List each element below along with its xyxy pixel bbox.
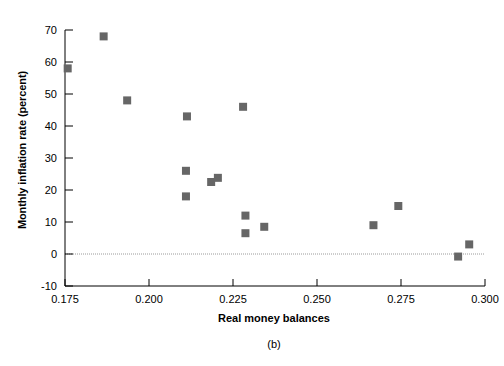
data-point-marker [64,64,72,72]
y-axis-tick-label: -10 [41,280,57,292]
data-point-marker [241,229,249,237]
data-point-marker [183,112,191,120]
x-axis-tick-label: 0.200 [135,293,163,305]
y-axis-tick-label: 10 [45,216,57,228]
data-point-marker [241,212,249,220]
data-point-marker [454,253,462,261]
y-axis-tick-label: 50 [45,88,57,100]
data-point-marker [182,192,190,200]
data-point-marker [394,202,402,210]
x-axis-tick-label: 0.300 [471,293,499,305]
x-axis-tick-label: 0.225 [219,293,247,305]
y-axis-tick-label: 70 [45,24,57,36]
y-axis-tick-label: 20 [45,184,57,196]
y-axis-tick-label: 60 [45,56,57,68]
x-axis-tick-label: 0.175 [51,293,79,305]
data-point-marker [123,96,131,104]
figure-caption: (b) [22,338,504,350]
x-axis-tick-label: 0.250 [303,293,331,305]
data-point-marker [465,240,473,248]
data-point-marker [239,103,247,111]
data-point-marker [369,221,377,229]
y-axis-tick-label: 40 [45,120,57,132]
figure-panel: Monthly inflation rate (percent) 7060504… [0,0,504,366]
x-axis-tick-label: 0.275 [387,293,415,305]
y-axis-tick-label: 0 [51,248,57,260]
x-axis-title: Real money balances [22,312,504,324]
data-point-marker [214,174,222,182]
data-point-marker [100,32,108,40]
data-point-marker [260,223,268,231]
data-point-marker [182,167,190,175]
y-axis-tick-label: 30 [45,152,57,164]
